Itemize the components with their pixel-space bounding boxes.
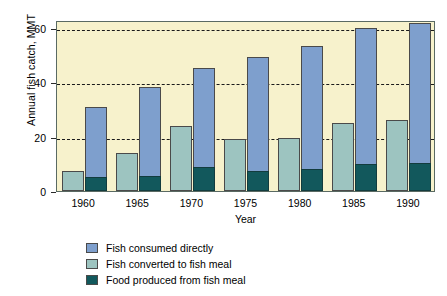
legend-label-0: Fish consumed directly: [106, 242, 213, 254]
bar-food-produced-1990[interactable]: [409, 163, 431, 192]
bar-group-1960: [62, 22, 107, 191]
bar-food-produced-1980[interactable]: [301, 169, 323, 191]
bar-group-1990: [386, 22, 431, 191]
bar-fish-converted-1985[interactable]: [332, 123, 354, 191]
plot-area: [56, 21, 435, 192]
bar-food-produced-1975[interactable]: [247, 171, 269, 191]
legend-swatch-icon-1: [86, 259, 98, 269]
x-tick-label-1975: 1975: [234, 197, 257, 209]
bar-group-1965: [116, 22, 161, 191]
bar-fish-converted-1970[interactable]: [170, 126, 192, 191]
bar-fish-converted-1965[interactable]: [116, 153, 138, 191]
legend-swatch-icon-0: [86, 243, 98, 253]
bar-fish-converted-1980[interactable]: [278, 138, 300, 191]
fish-catch-bar-chart: Annual fish catch, MMT 0204060 196019651…: [0, 0, 447, 296]
x-tick-label-1965: 1965: [126, 197, 149, 209]
bar-food-produced-1970[interactable]: [193, 167, 215, 191]
x-tick-label-1990: 1990: [396, 197, 419, 209]
legend-item-1[interactable]: Fish converted to fish meal: [86, 256, 245, 272]
y-tick-label-0: 0: [16, 186, 46, 198]
y-tick-label-60: 60: [16, 23, 46, 35]
bar-food-produced-1960[interactable]: [85, 177, 107, 191]
bar-group-1985: [332, 22, 377, 191]
y-tick-label-40: 40: [16, 77, 46, 89]
chart-legend: Fish consumed directlyFish converted to …: [86, 240, 245, 288]
x-tick-label-1980: 1980: [288, 197, 311, 209]
y-axis-title: Annual fish catch, MMT: [25, 0, 37, 145]
legend-swatch-icon-2: [86, 275, 98, 285]
y-tick-mark-0: [51, 192, 56, 193]
bar-food-produced-1985[interactable]: [355, 164, 377, 191]
bar-group-1970: [170, 22, 215, 191]
bar-fish-converted-1960[interactable]: [62, 171, 84, 191]
y-tick-label-20: 20: [16, 132, 46, 144]
bar-fish-converted-1975[interactable]: [224, 139, 246, 191]
bar-fish-converted-1990[interactable]: [386, 120, 408, 191]
legend-label-2: Food produced from fish meal: [106, 274, 245, 286]
x-axis-title: Year: [56, 213, 435, 225]
x-tick-label-1985: 1985: [342, 197, 365, 209]
x-tick-label-1960: 1960: [71, 197, 94, 209]
legend-item-0[interactable]: Fish consumed directly: [86, 240, 245, 256]
bar-food-produced-1965[interactable]: [139, 176, 161, 191]
bar-group-1975: [224, 22, 269, 191]
bar-group-1980: [278, 22, 323, 191]
legend-label-1: Fish converted to fish meal: [106, 258, 231, 270]
x-tick-label-1970: 1970: [180, 197, 203, 209]
legend-item-2[interactable]: Food produced from fish meal: [86, 272, 245, 288]
